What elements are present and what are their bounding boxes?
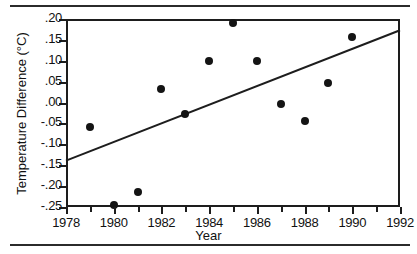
y-tick-label: -.10 bbox=[41, 135, 62, 150]
x-tick-mark bbox=[161, 207, 163, 214]
data-point bbox=[205, 57, 213, 65]
figure-container: .20.15.10.05.00-.05-.10-.15-.20-.25 1978… bbox=[0, 0, 417, 254]
x-minor-tick-mark bbox=[376, 207, 378, 212]
data-point bbox=[253, 57, 261, 65]
x-minor-tick-mark bbox=[281, 207, 283, 212]
y-tick-label: -.15 bbox=[41, 156, 62, 171]
x-minor-tick-mark bbox=[185, 207, 187, 212]
y-tick-label: -.20 bbox=[41, 177, 62, 192]
x-tick-mark bbox=[352, 207, 354, 214]
x-minor-tick-mark bbox=[138, 207, 140, 212]
trend-line bbox=[66, 19, 400, 207]
plot-area: .20.15.10.05.00-.05-.10-.15-.20-.25 1978… bbox=[66, 19, 400, 207]
data-point bbox=[134, 188, 142, 196]
y-tick-label: -.05 bbox=[41, 114, 62, 129]
x-tick-mark bbox=[209, 207, 211, 214]
y-tick-label: .00 bbox=[45, 94, 62, 109]
y-tick-label: .20 bbox=[45, 10, 62, 25]
x-minor-tick-mark bbox=[328, 207, 330, 212]
x-tick-mark bbox=[257, 207, 259, 214]
x-tick-mark bbox=[114, 207, 116, 214]
y-tick-label: .10 bbox=[45, 52, 62, 67]
data-point bbox=[277, 100, 285, 108]
y-tick-label: .15 bbox=[45, 31, 62, 46]
x-tick-mark bbox=[305, 207, 307, 214]
x-axis-title: Year bbox=[0, 228, 417, 243]
data-point bbox=[86, 123, 94, 131]
x-tick-mark bbox=[66, 207, 68, 214]
data-point bbox=[301, 117, 309, 125]
y-tick-label: -.25 bbox=[41, 198, 62, 213]
bottom-divider-rule bbox=[10, 244, 410, 246]
top-divider-rule bbox=[10, 5, 410, 7]
y-tick-label: .05 bbox=[45, 73, 62, 88]
x-minor-tick-mark bbox=[90, 207, 92, 212]
data-point bbox=[348, 33, 356, 41]
x-tick-mark bbox=[400, 207, 402, 214]
y-axis-title: Temperature Difference (°C) bbox=[14, 19, 29, 209]
x-minor-tick-mark bbox=[233, 207, 235, 212]
